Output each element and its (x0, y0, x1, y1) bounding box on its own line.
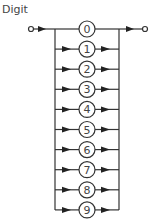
digit-label: 8 (84, 184, 91, 197)
digit-label: 2 (84, 63, 91, 76)
arrow-out-icon (101, 106, 110, 112)
choice-2: 2 (55, 61, 119, 77)
arrow-in-icon (62, 127, 71, 133)
exit-arrow-icon (126, 26, 134, 32)
arrow-out-icon (101, 167, 110, 173)
choice-6: 6 (55, 142, 119, 158)
choice-9: 9 (55, 202, 119, 218)
arrow-in-icon (62, 86, 71, 92)
choice-1: 1 (55, 41, 119, 57)
digit-label: 5 (84, 124, 91, 137)
arrow-out-icon (101, 187, 110, 193)
digit-label: 7 (84, 164, 91, 177)
choice-3: 3 (55, 81, 119, 97)
arrow-in-icon (62, 66, 71, 72)
choice-8: 8 (55, 182, 119, 198)
choice-7: 7 (55, 162, 119, 178)
arrow-in-icon (62, 207, 71, 213)
arrow-out-icon (101, 207, 110, 213)
arrow-out-icon (101, 46, 110, 52)
arrow-in-icon (62, 46, 71, 52)
arrow-in-icon (62, 187, 71, 193)
end-terminal-icon (143, 27, 148, 32)
arrow-out-icon (101, 127, 110, 133)
choice-0: 0 (55, 21, 119, 37)
choice-4: 4 (55, 101, 119, 117)
digit-label: 9 (84, 204, 91, 217)
start-terminal-icon (29, 27, 34, 32)
digit-label: 6 (84, 144, 91, 157)
arrow-out-icon (101, 66, 110, 72)
arrow-out-icon (101, 147, 110, 153)
arrow-in-icon (62, 147, 71, 153)
digit-label: 4 (84, 103, 91, 116)
entry-arrow-icon (38, 26, 46, 32)
choice-5: 5 (55, 122, 119, 138)
digit-label: 0 (84, 23, 91, 36)
railroad-diagram: 0123456789 (0, 0, 159, 224)
arrow-out-icon (101, 86, 110, 92)
digit-label: 3 (84, 83, 91, 96)
arrow-in-icon (62, 167, 71, 173)
digit-label: 1 (84, 43, 91, 56)
arrow-in-icon (62, 106, 71, 112)
